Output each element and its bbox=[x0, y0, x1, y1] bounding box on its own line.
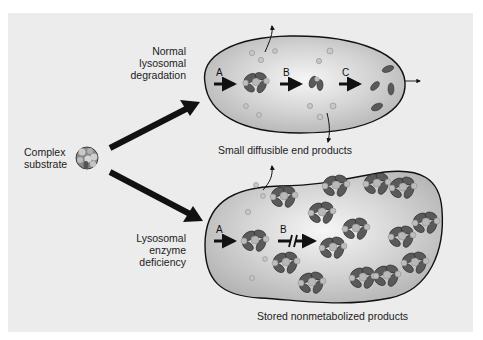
deficient-step-b: B bbox=[280, 224, 287, 235]
deficient-lysosome bbox=[205, 166, 442, 303]
deficient-step-a: A bbox=[216, 224, 223, 235]
normal-label-line2: lysosomal bbox=[130, 57, 186, 69]
diagram-canvas bbox=[0, 0, 483, 340]
normal-caption: Small diffusible end products bbox=[210, 144, 360, 156]
normal-label: Normal lysosomal degradation bbox=[130, 45, 186, 81]
normal-step-b: B bbox=[283, 67, 290, 78]
arrow-to-deficient bbox=[110, 172, 190, 214]
normal-step-a: A bbox=[216, 67, 223, 78]
deficiency-label-line2: enzyme bbox=[130, 244, 186, 256]
substrate-label-line2: substrate bbox=[24, 158, 67, 170]
arrow-to-normal bbox=[110, 108, 188, 148]
normal-label-line3: degradation bbox=[130, 69, 186, 81]
deficient-caption: Stored nonmetabolized products bbox=[250, 310, 415, 322]
substrate-label-line1: Complex bbox=[24, 146, 67, 158]
normal-label-line1: Normal bbox=[130, 45, 186, 57]
deficiency-label-line1: Lysosomal bbox=[130, 232, 186, 244]
normal-lysosome bbox=[205, 26, 420, 142]
deficiency-label: Lysosomal enzyme deficiency bbox=[130, 232, 186, 268]
substrate-label: Complex substrate bbox=[24, 146, 67, 170]
complex-substrate-icon bbox=[76, 147, 98, 169]
normal-step-c: C bbox=[342, 67, 349, 78]
deficiency-label-line3: deficiency bbox=[130, 256, 186, 268]
